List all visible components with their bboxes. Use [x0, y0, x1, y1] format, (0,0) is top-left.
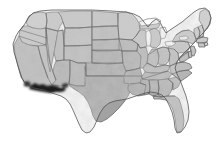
lake-michigan [146, 30, 151, 46]
state-arizona[interactable] [52, 60, 70, 86]
state-nebraska[interactable] [92, 39, 122, 51]
state-south-dakota[interactable] [92, 26, 119, 40]
region-west [14, 11, 92, 92]
state-oklahoma[interactable] [86, 63, 126, 76]
state-florida[interactable] [153, 96, 184, 132]
us-map-figure [0, 0, 221, 145]
state-montana[interactable] [58, 11, 92, 28]
state-north-dakota[interactable] [92, 11, 118, 27]
state-connecticut[interactable] [198, 43, 205, 47]
state-new-mexico[interactable] [69, 60, 86, 86]
state-ohio[interactable] [157, 47, 170, 65]
state-kansas[interactable] [92, 50, 123, 64]
state-wyoming[interactable] [63, 27, 92, 46]
us-map-svg [0, 0, 221, 145]
